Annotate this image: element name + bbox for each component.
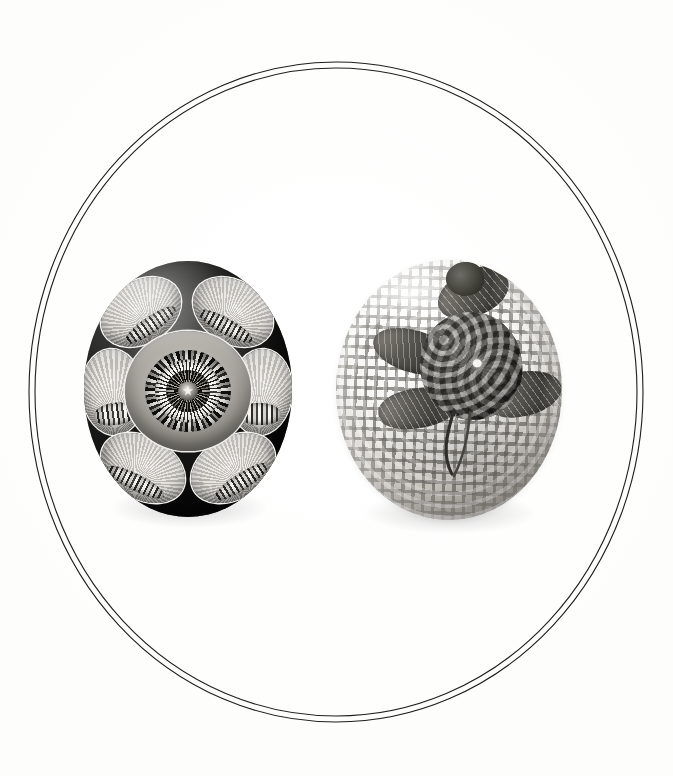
paperweight-left-dome xyxy=(84,261,292,517)
paperweight-left[interactable] xyxy=(84,261,292,517)
millefiori-rosette xyxy=(145,350,231,432)
plate-background xyxy=(0,0,673,776)
stem-secondary xyxy=(454,412,470,476)
paperweight-right[interactable] xyxy=(336,260,562,520)
center-window xyxy=(125,331,251,451)
stems xyxy=(336,260,562,520)
paperweight-right-dome xyxy=(336,260,562,520)
